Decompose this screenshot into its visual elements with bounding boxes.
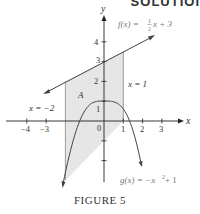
f-arrow-right-icon (148, 35, 155, 41)
x-tick-label: −3 (40, 124, 49, 134)
y-axis-arrow-icon (102, 15, 107, 21)
g-label: g(x) = −x 2 + 1 (120, 174, 177, 185)
svg-text:2: 2 (148, 26, 151, 32)
left-bound-label: x = −2 (28, 103, 55, 113)
right-bound-label: x = 1 (127, 79, 147, 89)
svg-text:1: 1 (148, 18, 151, 24)
svg-text:f(x) =: f(x) = (118, 19, 139, 29)
y-tick-label: 1 (96, 104, 100, 114)
figure-caption: FIGURE 5 (0, 194, 200, 206)
g-arrow-right-icon (139, 161, 143, 167)
x-tick-label: 2 (140, 124, 144, 134)
x-tick-label: 0 (97, 123, 101, 133)
svg-text:x + 3: x + 3 (152, 19, 173, 29)
f-arrow-left-icon (43, 89, 50, 94)
y-tick-label: 4 (94, 37, 99, 47)
x-axis-label: x (185, 115, 191, 126)
region-label: A (77, 90, 84, 100)
figure-graph: y x −4 −3 0 1 2 3 1 2 3 4 f(x) = 1 2 x +… (0, 0, 200, 214)
y-tick-label: 3 (96, 55, 100, 65)
f-label: f(x) = 1 2 x + 3 (118, 18, 173, 32)
x-axis-arrow-icon (178, 119, 184, 124)
y-tick-label: 2 (94, 76, 98, 86)
g-arrow-left-icon (62, 181, 66, 188)
svg-text:+ 1: + 1 (165, 175, 177, 185)
x-tick-label: 1 (121, 124, 125, 134)
svg-text:g(x) = −x: g(x) = −x (120, 175, 155, 185)
y-axis-label: y (100, 3, 106, 14)
x-tick-label: 3 (159, 124, 163, 134)
x-tick-label: −4 (21, 124, 31, 134)
